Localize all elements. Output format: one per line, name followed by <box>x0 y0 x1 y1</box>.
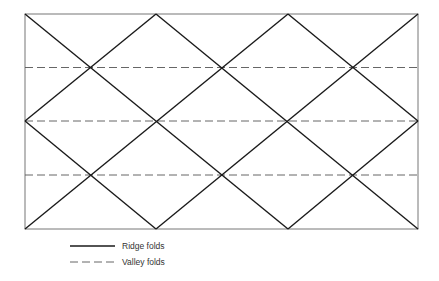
legend-valley-label: Valley folds <box>122 257 165 267</box>
legend-ridge-label: Ridge folds <box>122 241 165 251</box>
fold-diagram <box>0 0 439 281</box>
paper-frame <box>25 14 418 229</box>
